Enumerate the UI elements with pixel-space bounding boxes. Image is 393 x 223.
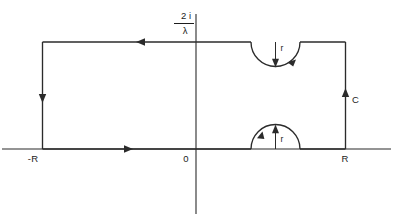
arrow-bottom-right-direction-icon: [124, 145, 133, 152]
radius-lower-label: r: [281, 134, 284, 144]
fraction-denominator: λ: [183, 25, 188, 36]
label-contour-C: C: [352, 94, 359, 105]
contour-diagram-figure: r r -R 0 R C 2 i λ: [0, 0, 393, 223]
contour-diagram-canvas: r r -R 0 R C 2 i λ: [0, 0, 393, 223]
top-imaginary-value-label: 2 i λ: [174, 10, 194, 36]
fraction-numerator: 2 i: [181, 10, 191, 21]
label-minus-R: -R: [28, 153, 38, 164]
radius-lower-arrow-up-icon: [272, 125, 279, 134]
radius-indicator-upper: r: [272, 42, 284, 68]
label-R: R: [341, 153, 348, 164]
axis-labels-group: -R 0 R C: [28, 94, 359, 164]
radius-upper-label: r: [281, 43, 284, 53]
radius-indicator-lower: r: [272, 125, 284, 150]
label-origin: 0: [183, 153, 188, 164]
direction-arrowheads-group: [39, 38, 349, 152]
arrow-right-up-direction-icon: [342, 88, 349, 97]
arrow-top-left-direction-icon: [136, 38, 145, 45]
axes-group: [2, 14, 391, 214]
contour-path-group: [43, 42, 346, 149]
arrow-left-down-direction-icon: [39, 94, 46, 103]
